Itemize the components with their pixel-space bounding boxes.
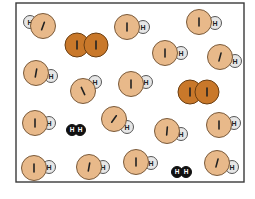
hydrogen-label: H (78, 126, 83, 133)
hydrogen-label: H (178, 50, 183, 57)
i2-molecule (178, 80, 219, 104)
hydrogen-label: H (70, 126, 75, 133)
hydrogen-label: H (232, 58, 237, 65)
hydrogen-label: H (231, 120, 236, 127)
hydrogen-label: H (143, 79, 148, 86)
hydrogen-label: H (229, 164, 234, 171)
iodine-label (167, 127, 168, 135)
hydrogen-label: H (148, 160, 153, 167)
h2-molecule: HH (67, 125, 86, 136)
hydrogen-label: H (175, 168, 180, 175)
hydrogen-label: H (46, 164, 51, 171)
molecule-diagram: HHHHHHHHHHHHHHHHHHHH (0, 0, 255, 199)
h2-molecule: HH (172, 167, 192, 178)
hydrogen-label: H (48, 73, 53, 80)
hydrogen-label: H (140, 24, 145, 31)
hydrogen-label: H (184, 168, 189, 175)
hydrogen-label: H (212, 20, 217, 27)
